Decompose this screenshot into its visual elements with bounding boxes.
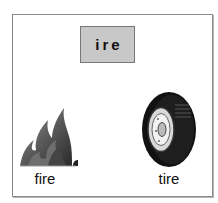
fire-label: fire [20,170,70,187]
word-family-box: ire [80,26,135,63]
tire-icon [141,91,197,168]
tire-label: tire [144,170,194,187]
word-family-text: ire [92,36,122,53]
fire-icon [18,106,80,168]
